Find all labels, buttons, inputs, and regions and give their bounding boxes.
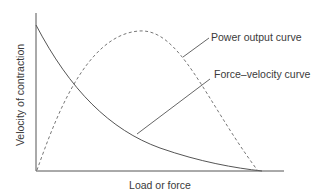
- power-curve-label: Power output curve: [211, 31, 302, 43]
- diagram: Power output curve Force–velocity curve …: [0, 0, 322, 194]
- power-output-curve: [37, 31, 258, 171]
- y-axis-label: Velocity of contraction: [14, 44, 26, 146]
- x-axis-label: Load or force: [129, 179, 191, 191]
- force-curve-label: Force–velocity curve: [214, 68, 310, 80]
- force-leader-line: [137, 79, 210, 134]
- force-velocity-curve: [36, 25, 262, 171]
- power-leader-line: [183, 38, 209, 57]
